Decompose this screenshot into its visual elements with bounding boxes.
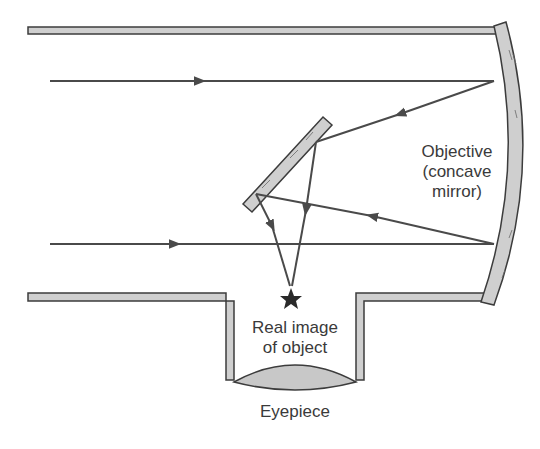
objective-label-line1: Objective	[412, 142, 502, 162]
eyepiece-lens	[234, 365, 356, 390]
telescope-diagram	[0, 0, 540, 449]
objective-label-line3: mirror)	[412, 182, 502, 202]
secondary-mirror	[243, 117, 332, 212]
eyepiece-label-text: Eyepiece	[235, 402, 355, 422]
real-image-label: Real image of object	[235, 318, 355, 358]
eyepiece-label: Eyepiece	[235, 402, 355, 422]
real-image-star	[280, 288, 302, 309]
tube-top-wall	[28, 27, 504, 34]
real-image-label-line1: Real image	[235, 318, 355, 338]
objective-label: Objective (concave mirror)	[412, 142, 502, 202]
objective-label-line2: (concave	[412, 162, 502, 182]
real-image-label-line2: of object	[235, 338, 355, 358]
